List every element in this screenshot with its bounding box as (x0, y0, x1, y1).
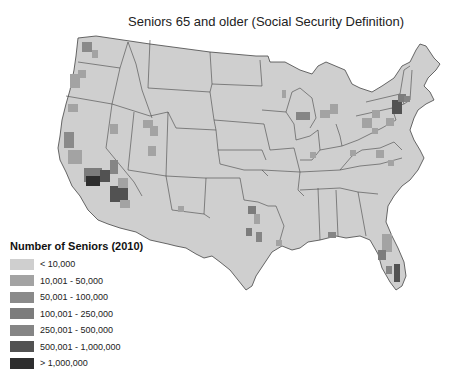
legend-swatch (10, 292, 34, 303)
legend-label: 250,001 - 500,000 (40, 325, 113, 335)
legend-label: 50,001 - 100,000 (40, 292, 108, 302)
legend-label: 100,001 - 250,000 (40, 309, 113, 319)
legend-item: 250,001 - 500,000 (10, 322, 143, 339)
legend-item: 50,001 - 100,000 (10, 289, 143, 306)
legend-label: 500,001 - 1,000,000 (40, 342, 121, 352)
legend-swatch (10, 325, 34, 336)
legend: Number of Seniors (2010) < 10,000 10,001… (10, 240, 143, 372)
legend-item: < 10,000 (10, 256, 143, 273)
legend-item: 500,001 - 1,000,000 (10, 339, 143, 356)
legend-swatch (10, 259, 34, 270)
legend-label: 10,001 - 50,000 (40, 276, 103, 286)
legend-swatch (10, 275, 34, 286)
legend-swatch (10, 358, 34, 369)
legend-item: 10,001 - 50,000 (10, 273, 143, 290)
legend-item: 100,001 - 250,000 (10, 306, 143, 323)
legend-title: Number of Seniors (2010) (10, 240, 143, 252)
legend-swatch (10, 341, 34, 352)
legend-swatch (10, 308, 34, 319)
legend-item: > 1,000,000 (10, 355, 143, 372)
legend-label: < 10,000 (40, 259, 75, 269)
legend-label: > 1,000,000 (40, 358, 88, 368)
